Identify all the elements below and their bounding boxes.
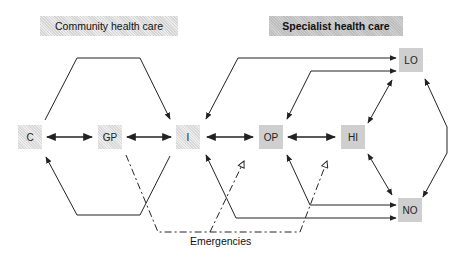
node-c: C	[18, 125, 42, 149]
emergency-arrow-hi	[300, 161, 327, 232]
node-op: OP	[259, 125, 283, 149]
arrow-hi-no	[368, 154, 392, 195]
arrow-op-no	[287, 155, 396, 205]
emergency-path-gp	[126, 155, 300, 232]
specialist-health-care-label: Specialist health care	[269, 16, 403, 36]
emergency-arrow-op	[210, 161, 244, 232]
community-health-care-label: Community health care	[40, 16, 178, 36]
arrow-c-top-i	[45, 58, 170, 120]
node-gp: GP	[98, 125, 122, 149]
emergencies-label: Emergencies	[190, 235, 251, 247]
node-hi: HI	[341, 125, 365, 149]
arrow-i-bottom-c	[46, 156, 170, 215]
arrow-hi-lo	[368, 80, 392, 123]
arrow-lo-no	[423, 79, 447, 197]
node-i: I	[176, 125, 200, 149]
arrow-op-lo	[287, 71, 396, 119]
node-no: NO	[398, 198, 422, 222]
arrow-i-lo	[206, 58, 396, 119]
node-lo: LO	[399, 48, 423, 72]
